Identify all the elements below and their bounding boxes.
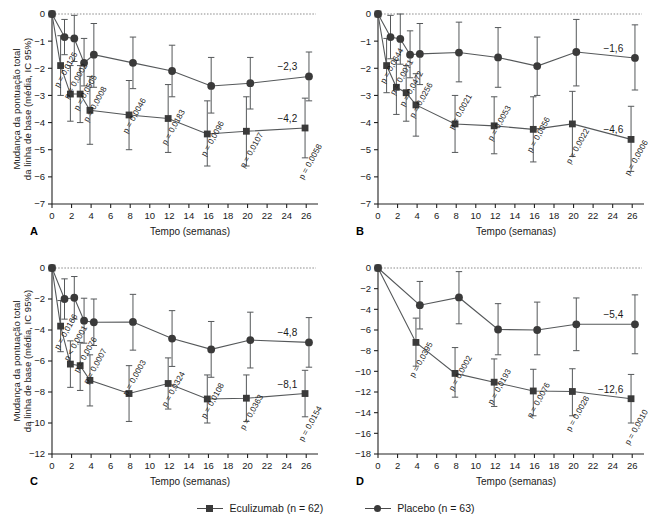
- y-tick-label: −1: [34, 36, 45, 47]
- data-point-circle: [246, 336, 254, 344]
- data-point-circle: [374, 264, 382, 272]
- x-tick-label: 6: [108, 210, 113, 221]
- y-tick-label: 0: [366, 262, 371, 273]
- x-tick-label: 12: [490, 460, 501, 471]
- data-point-circle: [305, 339, 313, 347]
- p-value-label: p = 0,0193: [486, 367, 513, 406]
- data-point-square: [302, 390, 309, 397]
- x-tick-label: 22: [588, 460, 599, 471]
- data-point-square: [243, 128, 250, 135]
- x-tick-label: 26: [627, 210, 638, 221]
- y-tick-label: −10: [355, 366, 371, 377]
- series-line: [378, 268, 635, 330]
- panel-letter: A: [30, 225, 38, 237]
- x-tick-label: 10: [144, 460, 155, 471]
- y-tick-label: 0: [40, 8, 45, 19]
- data-point-circle: [48, 264, 56, 272]
- x-axis-title: Tempo (semanas): [150, 476, 230, 487]
- x-tick-label: 0: [49, 210, 54, 221]
- x-tick-label: 24: [607, 210, 618, 221]
- series-eculizumab: [375, 265, 635, 423]
- panel-letter: D: [356, 475, 364, 487]
- y-tick-label: −4: [360, 117, 371, 128]
- x-tick-label: 10: [470, 460, 481, 471]
- end-value-label: −12,6: [598, 384, 624, 395]
- p-value-label: p = 0,0056: [525, 115, 552, 154]
- x-tick-label: 20: [568, 210, 579, 221]
- legend-item-eculizumab: Eculizumab (n = 62): [197, 502, 323, 514]
- p-value-label: p = 0,0022: [564, 127, 591, 166]
- data-point-square: [413, 339, 420, 346]
- y-tick-label: −6: [34, 355, 45, 366]
- end-value-label: −5,4: [603, 309, 623, 320]
- legend-label-eculizumab: Eculizumab (n = 62): [229, 502, 323, 514]
- y-tick-label: −18: [355, 448, 371, 459]
- y-tick-label: −6: [360, 324, 371, 335]
- data-point-square: [628, 395, 635, 402]
- square-marker-icon: [197, 503, 223, 513]
- x-tick-label: 22: [588, 210, 599, 221]
- data-point-circle: [533, 62, 541, 70]
- x-tick-label: 0: [49, 460, 54, 471]
- x-tick-label: 6: [434, 460, 439, 471]
- panel-d-plot: 0−2−4−6−8−10−12−14−16−180246810121416182…: [336, 258, 672, 496]
- panel-a-plot: 0−1−2−3−4−5−6−702468101214161820222426Te…: [0, 0, 336, 246]
- data-point-circle: [80, 317, 88, 325]
- end-value-label: −1,6: [603, 43, 623, 54]
- end-value-label: −8,1: [277, 379, 297, 390]
- x-tick-label: 4: [414, 210, 419, 221]
- x-tick-label: 20: [242, 210, 253, 221]
- data-point-circle: [387, 33, 395, 41]
- p-value-label: p = 0,0076: [525, 381, 552, 420]
- y-tick-label: −3: [360, 90, 371, 101]
- data-point-circle: [455, 294, 463, 302]
- p-value-label: p = 0,0108: [199, 381, 226, 420]
- x-tick-label: 8: [128, 210, 133, 221]
- legend-label-placebo: Placebo (n = 63): [397, 502, 474, 514]
- y-tick-label: −16: [355, 428, 371, 439]
- data-point-circle: [90, 318, 98, 326]
- x-tick-label: 12: [164, 460, 175, 471]
- data-point-circle: [61, 33, 69, 41]
- p-value-label: p = 0,0028: [564, 394, 591, 433]
- data-point-square: [569, 388, 576, 395]
- x-axis-title: Tempo (semanas): [150, 226, 230, 237]
- y-tick-label: −7: [360, 198, 371, 209]
- y-tick-label: −2: [34, 63, 45, 74]
- x-axis-title: Tempo (semanas): [476, 226, 556, 237]
- y-tick-label: −2: [34, 293, 45, 304]
- x-tick-label: 22: [262, 460, 273, 471]
- data-point-circle: [455, 49, 463, 57]
- panel-c: 0−2−4−6−8−10−1202468101214161820222426Te…: [0, 258, 336, 496]
- data-point-circle: [572, 320, 580, 328]
- panel-d: 0−2−4−6−8−10−12−14−16−180246810121416182…: [336, 258, 672, 496]
- series-placebo: [48, 264, 313, 377]
- x-tick-label: 4: [414, 460, 419, 471]
- data-point-circle: [494, 54, 502, 62]
- data-point-circle: [207, 82, 215, 90]
- x-tick-label: 2: [69, 210, 74, 221]
- p-value-label: p = 0,0183: [160, 108, 187, 147]
- x-tick-label: 16: [529, 210, 540, 221]
- x-tick-label: 2: [395, 210, 400, 221]
- panel-c-plot: 0−2−4−6−8−10−1202468101214161820222426Te…: [0, 258, 336, 496]
- y-axis-title-line1: Mudança da pontuação total: [11, 48, 22, 169]
- x-tick-label: 4: [88, 210, 93, 221]
- y-tick-label: −12: [29, 448, 45, 459]
- x-tick-label: 12: [164, 210, 175, 221]
- x-tick-label: 0: [375, 210, 380, 221]
- data-point-circle: [129, 59, 137, 67]
- x-tick-label: 24: [607, 460, 618, 471]
- x-tick-label: 6: [434, 210, 439, 221]
- end-value-label: −4,2: [277, 113, 297, 124]
- data-point-circle: [48, 10, 56, 18]
- x-tick-label: 16: [203, 460, 214, 471]
- p-value-label: p = 0,0053: [486, 104, 513, 143]
- y-tick-label: −2: [360, 63, 371, 74]
- x-tick-label: 20: [568, 460, 579, 471]
- data-point-square: [243, 395, 250, 402]
- data-point-circle: [305, 73, 313, 81]
- x-tick-label: 26: [301, 210, 312, 221]
- x-tick-label: 2: [395, 460, 400, 471]
- y-axis-title-line2: da linha de base (média, IC 95%): [22, 290, 33, 432]
